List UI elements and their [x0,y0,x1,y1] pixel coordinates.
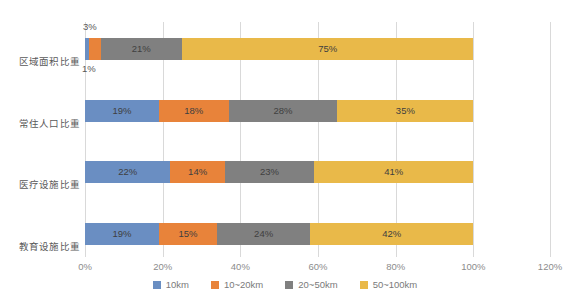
legend-label: 10~20km [224,279,263,290]
bar-value-label: 35% [396,106,415,116]
bar-segment-50-100km[interactable]: 41% [314,161,473,183]
category-label-1: 常住人口比重 [0,116,80,130]
bar-segment-20-50km[interactable]: 23% [225,161,314,183]
legend-label: 50~100km [373,279,418,290]
category-axis: 区域面积比重 常住人口比重 医疗设施比重 教育设施比重 [0,22,80,257]
bar-value-label: 42% [382,229,401,239]
bar-value-label: 22% [118,167,137,177]
bar-segment-10-20km[interactable]: 15% [159,223,217,245]
legend-swatch-icon [153,281,161,289]
bar-value-label: 23% [260,167,279,177]
chart-legend: 10km 10~20km 20~50km 50~100km [0,279,570,290]
stacked-bar-chart: 区域面积比重 常住人口比重 医疗设施比重 教育设施比重 1% 3% 21% 75… [0,0,570,301]
bar-value-label: 3% [83,22,97,32]
xtick-label: 80% [386,261,405,272]
bar-value-label: 41% [384,167,403,177]
legend-item-10km[interactable]: 10km [153,279,189,290]
bar-value-label: 14% [188,167,207,177]
legend-item-20-50km[interactable]: 20~50km [285,279,337,290]
bar-segment-10-20km[interactable]: 3% [89,38,101,60]
bar-value-label: 15% [178,229,197,239]
legend-item-50-100km[interactable]: 50~100km [360,279,418,290]
xtick-label: 60% [308,261,327,272]
gridline-120 [550,22,551,257]
xtick-label: 20% [153,261,172,272]
legend-label: 10km [166,279,189,290]
bar-segment-50-100km[interactable]: 75% [182,38,473,60]
bar-segment-10km[interactable]: 19% [85,223,159,245]
legend-item-10-20km[interactable]: 10~20km [211,279,263,290]
xtick-label: 100% [461,261,485,272]
legend-swatch-icon [211,281,219,289]
xtick-label: 40% [231,261,250,272]
bar-value-label: 18% [184,106,203,116]
bar-value-label: 19% [112,229,131,239]
bar-value-label: 21% [132,44,151,54]
bar-segment-10km[interactable]: 19% [85,100,159,122]
bar-segment-50-100km[interactable]: 42% [310,223,473,245]
bar-segment-10-20km[interactable]: 18% [159,100,229,122]
plot-area: 1% 3% 21% 75% 19% 18% 28% 35% [85,22,551,257]
xtick-label: 120% [538,261,562,272]
legend-swatch-icon [285,281,293,289]
bar-value-label: 28% [274,106,293,116]
bar-value-label: 19% [112,106,131,116]
category-label-2: 医疗设施比重 [0,177,80,191]
bar-value-label: 75% [318,44,337,54]
legend-swatch-icon [360,281,368,289]
gridline-100 [473,22,474,257]
bar-segment-20-50km[interactable]: 21% [101,38,183,60]
xtick-label: 0% [78,261,92,272]
bar-segment-10km[interactable]: 22% [85,161,170,183]
category-label-3: 教育设施比重 [0,239,80,253]
bar-segment-10-20km[interactable]: 14% [170,161,224,183]
bar-segment-20-50km[interactable]: 24% [217,223,310,245]
bar-segment-50-100km[interactable]: 35% [337,100,473,122]
category-label-0: 区域面积比重 [0,54,80,68]
bar-value-label: 1% [82,64,96,74]
bar-segment-20-50km[interactable]: 28% [229,100,338,122]
bar-value-label: 24% [254,229,273,239]
legend-label: 20~50km [298,279,337,290]
